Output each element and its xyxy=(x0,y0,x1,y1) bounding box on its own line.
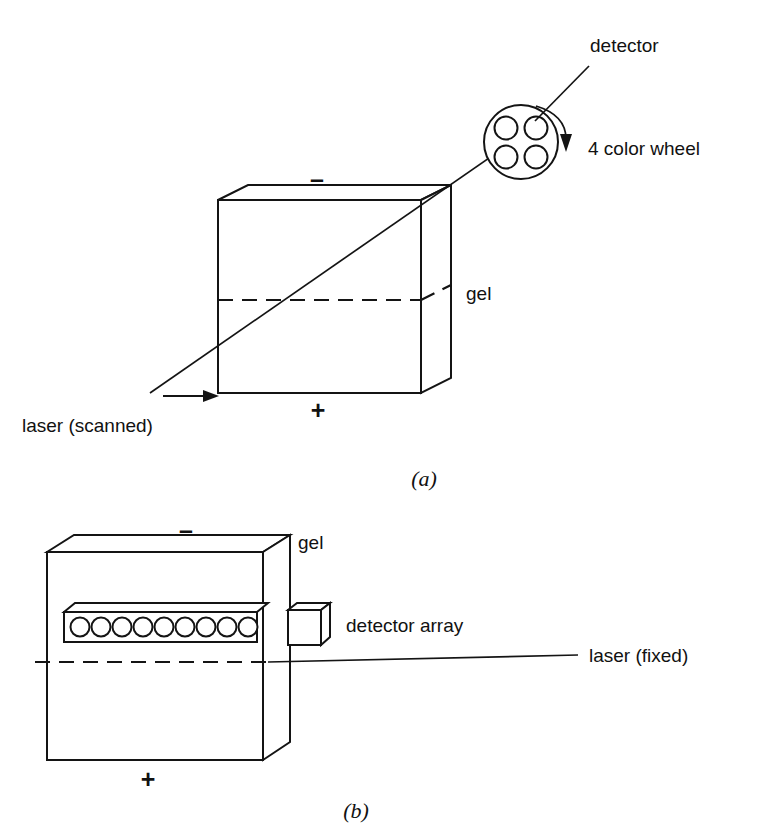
panel-b-detector-element xyxy=(71,618,90,637)
panel-b-detector-endcap-right-face xyxy=(321,603,330,645)
panel-b-detector-element xyxy=(239,618,258,637)
panel-b-detector-element xyxy=(92,618,111,637)
panel-b-group xyxy=(35,535,578,760)
panel-b-positive-electrode-label: + xyxy=(141,765,156,793)
panel-a-gel-right-face xyxy=(421,185,451,393)
panel-b-detector-element xyxy=(218,618,237,637)
panel-b-laser-beam xyxy=(268,655,578,662)
panel-b-detector-bar-top-face xyxy=(64,603,268,612)
panel-a-laser-label: laser (scanned) xyxy=(22,415,153,436)
panel-b-detector-element xyxy=(197,618,216,637)
panel-b-gel-right-face xyxy=(263,535,290,760)
panel-b-gel-label: gel xyxy=(298,532,323,553)
diagram-svg: detector 4 color wheel gel laser (scanne… xyxy=(0,0,759,839)
panel-a-gel-top-face xyxy=(218,185,451,200)
panel-a-positive-electrode-label: + xyxy=(311,396,326,424)
panel-b-gel-front-face xyxy=(47,552,263,760)
panel-b-detector-element xyxy=(113,618,132,637)
panel-a-detector-leader-line xyxy=(535,66,589,121)
panel-b-negative-electrode-label: – xyxy=(179,516,193,544)
panel-a-group xyxy=(150,66,589,402)
panel-b-laser-label: laser (fixed) xyxy=(589,645,688,666)
panel-b-detector-element xyxy=(134,618,153,637)
panel-a-gel-label: gel xyxy=(466,283,491,304)
panel-a-negative-electrode-label: – xyxy=(310,165,324,193)
panel-a-scan-direction-arrow xyxy=(163,390,219,402)
panel-b-detector-element xyxy=(155,618,174,637)
panel-a-detector-label: detector xyxy=(590,35,659,56)
panel-a-color-filter-1 xyxy=(495,117,518,140)
panel-a-caption: (a) xyxy=(411,466,437,491)
panel-b-gel-top-face xyxy=(47,535,290,552)
figure-canvas: detector 4 color wheel gel laser (scanne… xyxy=(0,0,759,839)
panel-a-gel-front-face xyxy=(218,200,421,393)
panel-a-color-filter-4 xyxy=(525,146,548,169)
panel-a-color-wheel-label: 4 color wheel xyxy=(588,138,700,159)
panel-b-detector-element xyxy=(176,618,195,637)
panel-a-color-filter-3 xyxy=(495,146,518,169)
panel-b-detector-array-label: detector array xyxy=(346,615,464,636)
panel-a-color-wheel-outer xyxy=(484,105,558,179)
panel-b-caption: (b) xyxy=(343,798,369,823)
panel-b-detector-endcap-front-face xyxy=(288,610,321,645)
